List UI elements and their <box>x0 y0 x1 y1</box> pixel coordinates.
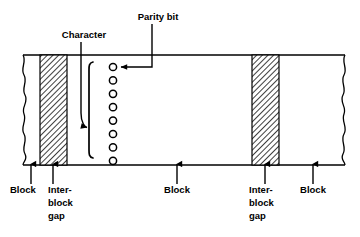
bit-circle <box>109 77 116 84</box>
character-callout: Character <box>62 29 107 128</box>
parity-bit-callout: Parity bit <box>121 11 179 67</box>
block-middle-label-line: Block <box>164 184 191 195</box>
character-bracket <box>89 62 93 158</box>
block-middle-label: Block <box>164 184 191 195</box>
bit-circle <box>109 130 116 137</box>
interblock-gap-right-label-line: block <box>249 197 275 208</box>
bit-circle <box>109 63 116 70</box>
tape-torn-right-edge <box>342 55 345 165</box>
block-right-label: Block <box>300 184 327 195</box>
bottom-callout-arrows <box>31 164 313 184</box>
bit-circle <box>109 104 116 111</box>
interblock-gap-left-label-line: block <box>48 197 74 208</box>
interblock-gap-band-right <box>252 55 279 165</box>
block-right-label-line: Block <box>300 184 327 195</box>
bottom-labels: Block Inter- block gap Block Inter- bloc… <box>10 184 327 221</box>
interblock-gap-left-label: Inter- block gap <box>48 184 75 221</box>
block-left-label-line: Block <box>10 184 37 195</box>
interblock-gap-bands <box>40 55 279 165</box>
parity-bit-label: Parity bit <box>138 11 179 22</box>
interblock-gap-right-label: Inter- block gap <box>249 184 276 221</box>
tape-diagram-container: Character Parity bit Block Inter- blo <box>0 0 360 237</box>
bit-circle <box>109 90 116 97</box>
interblock-gap-left-label-line: gap <box>48 210 65 221</box>
interblock-gap-right-label-line: Inter- <box>249 184 273 195</box>
tape-torn-left-edge <box>23 55 26 165</box>
tape-body <box>23 55 346 165</box>
interblock-gap-right-label-line: gap <box>249 210 266 221</box>
character-bit-column <box>89 62 117 164</box>
block-left-label: Block <box>10 184 37 195</box>
parity-bit-leader-line <box>121 24 152 67</box>
tape-diagram: Character Parity bit Block Inter- blo <box>0 0 360 237</box>
interblock-gap-band-left <box>40 55 67 165</box>
interblock-gap-left-label-line: Inter- <box>48 184 72 195</box>
bit-circle <box>109 157 116 164</box>
bit-circle <box>109 117 116 124</box>
bit-circle <box>109 144 116 151</box>
character-label: Character <box>62 29 107 40</box>
